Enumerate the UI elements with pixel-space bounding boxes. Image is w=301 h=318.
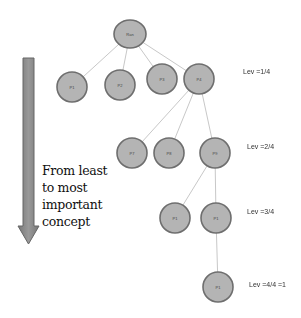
tree-node: P1 <box>203 272 233 302</box>
arrow-caption: From least to most important concept <box>42 162 107 230</box>
tree-node: P9 <box>200 138 230 168</box>
tree-node: P3 <box>147 64 177 94</box>
tree-node: P2 <box>105 70 135 100</box>
node-label: P4 <box>197 77 203 82</box>
tree-node: P4 <box>184 64 214 94</box>
caption-line: important <box>42 196 107 213</box>
node-label: P7 <box>130 151 136 156</box>
concept-tree-diagram: RanP1P2P3P4P7P8P9P1P1P1 <box>0 0 301 318</box>
node-label: P1 <box>70 85 76 90</box>
tree-node: P7 <box>117 138 147 168</box>
level-label-3: Lev =3/4 <box>247 208 274 215</box>
node-label: P1 <box>173 216 179 221</box>
tree-nodes: RanP1P2P3P4P7P8P9P1P1P1 <box>57 20 233 302</box>
caption-line: to most <box>42 179 107 196</box>
level-label-2: Lev =2/4 <box>247 143 274 150</box>
node-label: P1 <box>214 216 220 221</box>
level-label-1: Lev =1/4 <box>243 68 270 75</box>
node-label: P2 <box>118 83 124 88</box>
node-label: P1 <box>216 285 222 290</box>
node-label: Ran <box>126 32 133 37</box>
caption-line: concept <box>42 213 107 230</box>
node-label: P8 <box>167 151 173 156</box>
tree-node: P8 <box>154 138 184 168</box>
node-label: P9 <box>213 151 219 156</box>
tree-node: P1 <box>57 72 87 102</box>
tree-node: P1 <box>201 203 231 233</box>
tree-node: P1 <box>160 203 190 233</box>
tree-node: Ran <box>114 20 146 48</box>
caption-line: From least <box>42 162 107 179</box>
level-label-4: Lev =4/4 =1 <box>249 281 286 288</box>
importance-arrow-icon <box>18 58 39 244</box>
node-label: P3 <box>160 77 166 82</box>
